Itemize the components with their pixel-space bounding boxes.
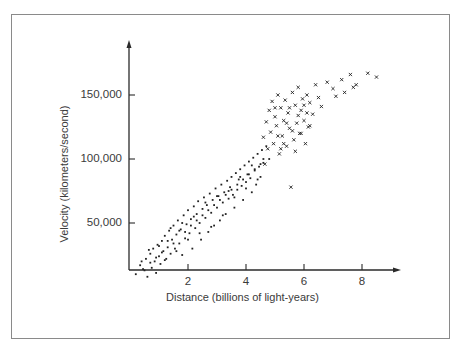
data-point-dot <box>167 246 169 248</box>
data-point-dot <box>268 158 270 160</box>
data-point-cross <box>282 142 285 145</box>
data-point-dot <box>222 202 224 204</box>
data-point-dot <box>242 179 244 181</box>
data-point-cross <box>349 73 352 76</box>
data-point-dot <box>241 185 243 187</box>
data-point-cross <box>302 119 305 122</box>
data-point-dot <box>177 220 179 222</box>
data-point-dot <box>189 232 191 234</box>
data-point-dot <box>228 190 230 192</box>
data-point-dot <box>244 165 246 167</box>
data-point-dot <box>151 267 153 269</box>
data-point-cross <box>314 83 317 86</box>
data-point-dot <box>145 258 147 260</box>
data-point-cross <box>295 122 298 125</box>
data-point-dot <box>148 249 150 251</box>
data-point-cross <box>276 134 279 137</box>
data-point-dot <box>238 179 240 181</box>
data-point-dot <box>216 195 218 197</box>
data-point-dot <box>158 245 160 247</box>
data-point-cross <box>297 86 300 89</box>
data-point-dot <box>245 188 247 190</box>
data-point-cross <box>311 113 314 116</box>
data-point-dot <box>219 220 221 222</box>
data-point-dot <box>257 153 259 155</box>
data-point-cross <box>262 136 265 139</box>
data-point-dot <box>234 207 236 209</box>
data-point-dot <box>210 212 212 214</box>
x-tick-label-8: 8 <box>352 275 372 287</box>
data-point-dot <box>207 209 209 211</box>
data-point-dot <box>187 239 189 241</box>
data-point-dot <box>178 243 180 245</box>
data-point-dot <box>205 217 207 219</box>
data-point-dot <box>193 205 195 207</box>
data-point-cross <box>285 122 288 125</box>
data-point-cross <box>340 78 343 81</box>
data-point-cross <box>278 152 281 155</box>
data-point-dot <box>199 232 201 234</box>
data-point-cross <box>273 106 276 109</box>
data-point-dot <box>222 214 224 216</box>
data-point-cross <box>366 72 369 75</box>
data-point-dot <box>155 257 157 259</box>
data-point-dot <box>171 239 173 241</box>
data-point-dot <box>141 261 143 263</box>
data-point-dot <box>251 191 253 193</box>
data-point-dot <box>225 213 227 215</box>
data-point-dot <box>196 213 198 215</box>
data-point-dot <box>205 202 207 204</box>
data-point-dot <box>202 214 204 216</box>
data-point-dot <box>248 173 250 175</box>
data-point-dot <box>155 272 157 274</box>
data-point-cross <box>343 91 346 94</box>
data-point-cross <box>291 129 294 132</box>
x-tick-label-4: 4 <box>236 275 256 287</box>
data-point-dot <box>147 276 149 278</box>
data-point-cross <box>302 104 305 107</box>
x-tick-label-6: 6 <box>294 275 314 287</box>
data-point-cross <box>308 101 311 104</box>
data-point-dot <box>248 161 250 163</box>
data-point-cross <box>269 131 272 134</box>
data-point-dot <box>181 254 183 256</box>
data-point-cross <box>326 81 329 84</box>
data-point-dot <box>216 207 218 209</box>
data-point-dot <box>178 230 180 232</box>
data-point-cross <box>276 93 279 96</box>
data-point-dot <box>190 218 192 220</box>
data-point-dot <box>260 176 262 178</box>
data-point-dot <box>242 199 244 201</box>
data-point-dot <box>170 227 172 229</box>
data-point-dot <box>235 172 237 174</box>
data-point-dot <box>209 193 211 195</box>
data-point-dot <box>263 158 265 160</box>
data-point-dot <box>207 231 209 233</box>
data-point-cross <box>282 119 285 122</box>
data-point-dot <box>199 222 201 224</box>
data-point-cross <box>294 150 297 153</box>
data-point-cross <box>304 142 307 145</box>
data-point-dot <box>154 261 156 263</box>
data-point-dot <box>193 216 195 218</box>
data-point-cross <box>279 106 282 109</box>
data-point-dot <box>158 255 160 257</box>
data-point-dot <box>215 188 217 190</box>
data-point-dot <box>203 197 205 199</box>
data-point-dot <box>236 184 238 186</box>
data-point-dot <box>183 214 185 216</box>
data-point-dot <box>213 225 215 227</box>
data-point-dot <box>149 262 151 264</box>
data-point-dot <box>212 199 214 201</box>
data-point-dot <box>176 250 178 252</box>
data-point-cross <box>271 100 274 103</box>
data-point-cross <box>284 99 287 102</box>
data-point-dot <box>228 198 230 200</box>
data-point-dot <box>231 176 233 178</box>
data-point-cross <box>275 124 278 127</box>
data-point-dot <box>142 268 144 270</box>
data-point-dot <box>254 168 256 170</box>
data-point-dot <box>223 191 225 193</box>
data-point-cross <box>317 96 320 99</box>
data-point-dot <box>210 226 212 228</box>
